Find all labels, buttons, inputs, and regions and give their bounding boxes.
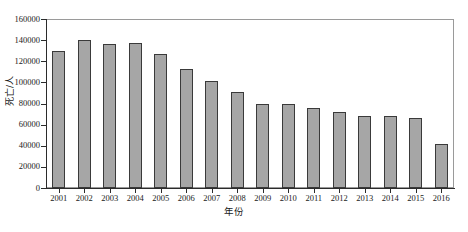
bar (180, 69, 193, 188)
bar (52, 51, 65, 188)
bar (129, 43, 142, 188)
bar (307, 108, 320, 188)
bar (256, 104, 269, 189)
bar (358, 116, 371, 188)
bar (231, 92, 244, 188)
bar (409, 118, 422, 188)
y-axis-tick-label-text: 160000 (0, 15, 40, 24)
y-axis-tick-label-text: 40000 (0, 141, 40, 150)
x-axis-line (46, 188, 455, 189)
y-axis-tick (41, 188, 46, 189)
y-axis-tick-label-text: 20000 (0, 162, 40, 171)
y-axis-tick-label: 160000 (0, 15, 40, 24)
x-axis-tick-label: 2016 (424, 193, 458, 203)
bar-chart: 0200004000060000800001000001200001400001… (0, 0, 468, 232)
bar (333, 112, 346, 188)
bar (282, 104, 295, 188)
bar (435, 144, 448, 188)
x-axis-title: 年份 (0, 206, 468, 217)
y-axis-tick-label: 140000 (0, 36, 40, 45)
bar (384, 116, 397, 188)
bars-layer (46, 19, 454, 188)
y-axis-tick-label: 20000 (0, 162, 40, 171)
bar (103, 44, 116, 188)
y-axis-tick-label-text: 0 (0, 184, 40, 193)
y-axis-tick-label: 60000 (0, 120, 40, 129)
bar (154, 54, 167, 188)
y-axis-tick-label-text: 140000 (0, 36, 40, 45)
bar (78, 40, 91, 188)
y-axis-tick-label: 0 (0, 184, 40, 193)
y-axis-tick-label: 40000 (0, 141, 40, 150)
y-axis-tick-label-text: 60000 (0, 120, 40, 129)
bar (205, 81, 218, 188)
y-axis-title: 死亡/人 (5, 61, 15, 121)
